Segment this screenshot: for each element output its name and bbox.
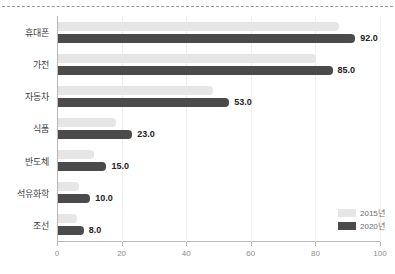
bar-value-label: 23.0 [137,129,155,139]
bar-2015 [58,150,94,159]
legend-item[interactable]: 2020년 [338,220,385,231]
bar-value-label: 53.0 [234,97,252,107]
bar-2015 [58,22,339,31]
x-axis-tick-label: 60 [246,249,255,258]
bar-value-label: 92.0 [360,33,378,43]
x-axis-tick-label: 40 [182,249,191,258]
x-axis-tick-label: 20 [117,249,126,258]
x-axis-tick-mark [315,242,316,246]
bar-2020 [58,226,84,235]
x-axis-tick-label: 0 [55,249,59,258]
category-group: 식품23.0 [57,112,380,144]
bar-2020 [58,34,355,43]
category-group: 조선8.0 [57,209,380,241]
category-group: 자동차53.0 [57,80,380,112]
category-axis-label: 휴대폰 [25,26,49,39]
legend-swatch-icon [338,209,356,217]
legend-label: 2015년 [360,207,385,218]
category-axis-label: 반도체 [25,154,49,167]
category-group: 석유화학10.0 [57,177,380,209]
bar-2020 [58,98,229,107]
bar-2015 [58,118,116,127]
bar-2020 [58,130,132,139]
bar-value-label: 8.0 [89,225,102,235]
bar-value-label: 15.0 [111,161,129,171]
category-axis-label: 가전 [33,58,49,71]
legend-swatch-icon [338,222,356,230]
bar-value-label: 10.0 [95,193,113,203]
legend-item[interactable]: 2015년 [338,207,385,218]
bar-value-label: 85.0 [338,65,356,75]
bar-2015 [58,54,316,63]
bar-2020 [58,66,333,75]
category-group: 가전85.0 [57,48,380,80]
category-axis-label: 석유화학 [17,186,49,199]
bar-2020 [58,162,106,171]
x-axis-tick-mark [122,242,123,246]
bar-2015 [58,86,213,95]
bar-chart-figure: 020406080100 휴대폰92.0가전85.0자동차53.0식품23.0반… [0,0,395,274]
category-axis-label: 식품 [33,122,49,135]
x-axis-tick-mark [380,242,381,246]
plot-area: 휴대폰92.0가전85.0자동차53.0식품23.0반도체15.0석유화학10.… [57,16,380,241]
x-axis-tick-label: 100 [373,249,386,258]
top-dashed-divider [2,6,393,7]
x-axis-line [57,241,380,242]
category-group: 휴대폰92.0 [57,16,380,48]
x-axis-tick-mark [186,242,187,246]
bar-2015 [58,214,77,223]
x-axis-tick-mark [251,242,252,246]
category-group: 반도체15.0 [57,145,380,177]
legend: 2015년2020년 [338,207,385,231]
category-axis-label: 조선 [33,218,49,231]
x-axis-tick-label: 80 [311,249,320,258]
legend-label: 2020년 [360,220,385,231]
x-axis-tick-mark [57,242,58,246]
bar-2020 [58,194,90,203]
category-axis-label: 자동차 [25,90,49,103]
bar-2015 [58,182,79,191]
